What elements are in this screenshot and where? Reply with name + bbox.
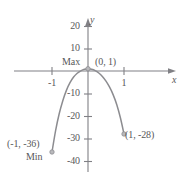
max-point-label: (0, 1) xyxy=(95,57,116,67)
y-tick-label-neg20: -20 xyxy=(60,111,80,121)
min-label: Min xyxy=(26,152,42,162)
max-label: Max xyxy=(62,57,80,67)
min-point-label: (-1, -36) xyxy=(7,139,39,149)
y-tick-label-neg30: -30 xyxy=(60,133,80,143)
x-tick-label-neg1: -1 xyxy=(42,78,62,88)
y-axis-label: y xyxy=(90,15,94,25)
y-tick-label-neg40: -40 xyxy=(60,156,80,166)
y-tick-label-20: 20 xyxy=(60,21,80,31)
y-tick-label-10: 10 xyxy=(60,43,80,53)
right-point-label: (1, -28) xyxy=(125,130,154,140)
graph-figure: y x 20 10 -10 -20 -30 -40 -1 1 Max (0, 1… xyxy=(0,0,184,178)
y-axis xyxy=(85,18,91,172)
x-axis-label: x xyxy=(172,75,176,85)
y-tick-label-neg10: -10 xyxy=(60,88,80,98)
x-tick-label-1: 1 xyxy=(114,78,134,88)
